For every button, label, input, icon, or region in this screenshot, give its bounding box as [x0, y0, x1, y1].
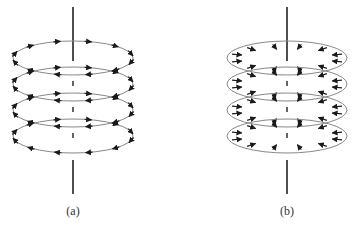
field-arrow — [247, 92, 255, 95]
field-arrow — [273, 145, 277, 150]
panel-a — [12, 7, 133, 194]
field-arrow — [318, 48, 326, 51]
field-arrow — [53, 41, 60, 42]
field-arrow — [129, 111, 134, 116]
field-arrow — [318, 92, 326, 95]
panel-b-label: (b) — [280, 204, 294, 218]
field-arrow — [27, 71, 34, 73]
field-arrow — [13, 86, 18, 91]
field-arrow — [12, 51, 17, 56]
field-arrow — [112, 71, 119, 73]
panel-b — [227, 7, 347, 194]
field-arrow — [53, 67, 60, 68]
field-arrow — [247, 126, 255, 129]
field-arrow — [112, 97, 119, 99]
field-arrow — [113, 95, 120, 97]
field-arrow — [12, 103, 17, 108]
field-arrow — [27, 45, 34, 47]
field-arrow — [332, 54, 342, 55]
field-arrow — [54, 100, 61, 101]
field-arrow — [85, 41, 92, 42]
field-arrow — [232, 132, 242, 133]
field-arrow — [318, 66, 326, 69]
field-arrow — [232, 80, 242, 81]
field-arrow — [297, 145, 301, 150]
field-arrow — [112, 123, 119, 125]
field-arrow — [85, 119, 92, 120]
field-arrow — [129, 137, 134, 142]
field-arrow — [332, 106, 342, 107]
field-arrow — [332, 132, 342, 133]
field-arrow — [232, 61, 242, 62]
field-arrow — [318, 118, 326, 121]
field-arrow — [85, 67, 92, 68]
field-arrow — [232, 54, 242, 55]
field-arrow — [332, 87, 342, 88]
field-arrow — [53, 119, 60, 120]
field-arrow — [13, 60, 18, 65]
field-arrow — [332, 139, 342, 140]
field-arrow — [232, 87, 242, 88]
field-arrow — [247, 66, 255, 69]
field-arrow — [232, 113, 242, 114]
field-arrow — [232, 139, 242, 140]
field-arrow — [332, 113, 342, 114]
field-arrow — [113, 69, 120, 71]
field-arrow — [318, 126, 326, 129]
field-arrow — [273, 44, 277, 49]
field-arrow — [54, 126, 61, 127]
field-arrow — [86, 74, 93, 75]
field-arrow — [247, 48, 255, 51]
field-arrow — [13, 112, 18, 117]
field-arrow — [332, 61, 342, 62]
field-arrow — [53, 93, 60, 94]
field-arrow — [318, 100, 326, 103]
field-arrow — [113, 121, 120, 123]
field-arrow — [54, 152, 61, 153]
field-arrow — [27, 123, 34, 125]
field-arrow — [318, 144, 326, 147]
field-arrow — [112, 45, 119, 47]
field-arrow — [247, 118, 255, 121]
field-arrow — [86, 152, 93, 153]
field-arrow — [12, 77, 17, 82]
field-arrow — [86, 126, 93, 127]
field-arrow — [332, 80, 342, 81]
field-arrow — [12, 129, 17, 134]
figure-canvas: (a) (b) — [0, 0, 356, 229]
field-arrow — [85, 93, 92, 94]
field-arrow — [247, 74, 255, 77]
field-arrow — [28, 147, 35, 149]
field-arrow — [318, 74, 326, 77]
field-arrow — [128, 129, 133, 134]
field-arrow — [247, 100, 255, 103]
field-arrow — [13, 138, 18, 143]
field-arrow — [54, 74, 61, 75]
field-arrow — [128, 77, 133, 82]
field-arrow — [129, 59, 134, 64]
field-arrow — [128, 51, 133, 56]
field-arrow — [113, 147, 120, 149]
field-arrow — [86, 100, 93, 101]
field-arrow — [297, 44, 301, 49]
field-arrow — [232, 106, 242, 107]
field-arrow — [128, 103, 133, 108]
field-arrow — [129, 85, 134, 90]
field-arrow — [27, 97, 34, 99]
field-arrow — [247, 144, 255, 147]
panel-a-label: (a) — [66, 204, 79, 218]
